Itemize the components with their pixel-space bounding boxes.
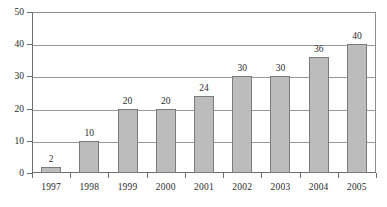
bar-chart: 0102030405021997101998201999202000242001…	[0, 0, 387, 207]
x-axis-tick	[261, 173, 262, 178]
x-axis-tick	[338, 173, 339, 178]
x-axis-tick	[108, 173, 109, 178]
bar[interactable]	[41, 167, 61, 173]
bar-value-label: 30	[276, 63, 286, 73]
bar[interactable]	[347, 44, 367, 173]
bar[interactable]	[309, 57, 329, 173]
bar-value-label: 20	[123, 96, 133, 106]
bar-value-label: 2	[49, 154, 54, 164]
x-axis-tick	[300, 173, 301, 178]
x-axis-category-label: 2003	[271, 182, 291, 193]
x-axis-category-label: 1997	[41, 182, 61, 193]
x-axis-tick	[223, 173, 224, 178]
bar[interactable]	[270, 76, 290, 173]
bar-slot	[32, 12, 70, 173]
y-axis-tick-label: 40	[2, 39, 24, 49]
y-axis-tick-label: 50	[2, 7, 24, 17]
y-axis-tick-label: 10	[2, 136, 24, 146]
x-axis-category-label: 1998	[79, 182, 99, 193]
x-axis-category-label: 1999	[118, 182, 138, 193]
bar[interactable]	[79, 141, 99, 173]
bar-slot	[108, 12, 146, 173]
bar-value-label: 10	[85, 128, 95, 138]
x-axis-category-label: 2001	[194, 182, 214, 193]
x-axis-tick	[70, 173, 71, 178]
x-axis-category-label: 2002	[232, 182, 252, 193]
bar-value-label: 30	[237, 63, 247, 73]
x-axis-category-label: 2004	[309, 182, 329, 193]
bar-slot	[300, 12, 338, 173]
bar-slot	[70, 12, 108, 173]
bar-value-label: 24	[199, 83, 209, 93]
bar-slot	[147, 12, 185, 173]
y-axis-tick-label: 30	[2, 71, 24, 81]
x-axis-tick	[32, 173, 33, 178]
bar[interactable]	[156, 109, 176, 173]
bar[interactable]	[194, 96, 214, 173]
bar-slot	[261, 12, 299, 173]
x-axis-category-label: 2000	[156, 182, 176, 193]
bar[interactable]	[232, 76, 252, 173]
bar-value-label: 20	[161, 96, 171, 106]
bar-value-label: 36	[314, 44, 324, 54]
y-axis-tick-label: 0	[2, 168, 24, 178]
bar[interactable]	[118, 109, 138, 173]
x-axis-category-label: 2005	[347, 182, 367, 193]
y-axis-tick-label: 20	[2, 104, 24, 114]
bar-slot	[223, 12, 261, 173]
bar-value-label: 40	[352, 31, 362, 41]
x-axis-tick	[185, 173, 186, 178]
x-axis-tick	[376, 173, 377, 178]
x-axis-tick	[147, 173, 148, 178]
